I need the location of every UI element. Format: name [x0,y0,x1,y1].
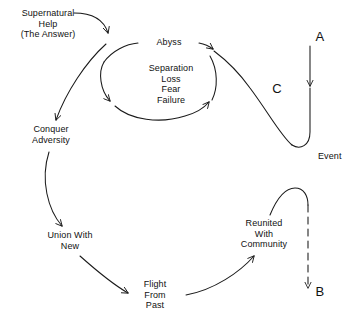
abyss-to-conquer-arrow [56,44,106,120]
event-to-abyss-curve-c [214,51,292,145]
node-reunited-with-community: Reunited With Community [228,218,300,250]
node-abyss: Abyss [140,37,198,48]
cycle-diagram: Supernatural Help (The Answer) Abyss Sep… [0,0,357,326]
flight-to-reunited-arrow [186,256,254,295]
event-u-turn [292,88,310,147]
node-conquer-adversity: Conquer Adversity [12,124,90,145]
node-abyss-inner-words: Separation Loss Fear Failure [135,63,207,105]
reunited-to-event-curve [270,188,308,215]
marker-c: C [268,82,286,96]
node-supernatural-help: Supernatural Help (The Answer) [4,8,92,40]
abyss-arc-top-left [104,43,138,62]
diagram-canvas [0,0,357,326]
union-to-flight-arrow [80,256,128,293]
node-union-with-new: Union With New [30,230,110,251]
abyss-arc-right [210,56,216,100]
node-flight-from-past: Flight From Past [124,279,186,311]
abyss-arc-top-right [199,43,213,49]
marker-a: A [310,30,330,44]
conquer-to-union-arrow [45,152,62,226]
node-event-label: Event [318,151,356,162]
abyss-arc-left [101,62,110,101]
marker-b: B [310,285,330,299]
